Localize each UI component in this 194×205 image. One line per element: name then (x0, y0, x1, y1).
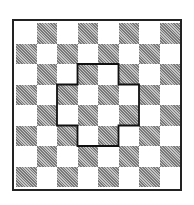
chessboard (12, 19, 182, 191)
cross-outline (16, 23, 180, 187)
